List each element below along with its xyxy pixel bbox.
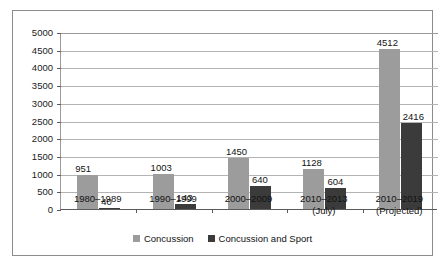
y-axis-tick-mark	[57, 210, 61, 211]
bar-value-label: 604	[327, 177, 343, 187]
legend-item-concussion[interactable]: Concussion	[133, 233, 194, 244]
bar-group: 95140	[77, 32, 120, 209]
bar-group: 1450640	[228, 32, 271, 209]
y-axis-tick-mark	[57, 175, 61, 176]
x-axis-category-label: 1990–1999	[135, 193, 210, 205]
legend-item-concussion-and-sport[interactable]: Concussion and Sport	[208, 233, 312, 244]
bar[interactable]	[175, 204, 196, 209]
y-axis-tick-label: 2000	[11, 134, 53, 144]
bar-group: 45122416	[379, 32, 422, 209]
bar-value-label: 1003	[151, 163, 172, 173]
y-axis-tick-mark	[57, 157, 61, 158]
y-axis-tick-mark	[57, 122, 61, 123]
y-axis-tick-label: 3500	[11, 81, 53, 91]
x-axis-category-line2: (July)	[286, 205, 361, 217]
x-axis-category-label: 1980–1989	[60, 193, 135, 205]
x-axis-category-line1: 1990–1999	[149, 193, 197, 204]
x-axis-category-line1: 2010–2019	[376, 193, 424, 204]
bar-value-label: 951	[75, 164, 91, 174]
y-axis-tick-label: 500	[11, 187, 53, 197]
chart-frame: 9514010031431450640112860445122416 Concu…	[12, 10, 433, 256]
bar-value-label: 4512	[377, 38, 398, 48]
x-axis-category-line1: 2000–2009	[225, 193, 273, 204]
x-axis-category-label: 2010–2013(July)	[286, 193, 361, 216]
y-axis-tick-mark	[57, 86, 61, 87]
y-axis-tick-label: 3000	[11, 99, 53, 109]
bar-group: 1128604	[303, 32, 346, 209]
bar-group: 1003143	[153, 32, 196, 209]
legend-label-concussion: Concussion	[144, 233, 194, 244]
x-axis-category-label: 2010–2019(Projected)	[362, 193, 437, 216]
y-axis-tick-label: 0	[11, 205, 53, 215]
y-axis-tick-label: 2500	[11, 117, 53, 127]
y-axis-tick-label: 4000	[11, 63, 53, 73]
bar-value-label: 1128	[301, 158, 321, 168]
bar-value-label: 1450	[226, 147, 247, 157]
bar-value-label: 640	[252, 175, 268, 185]
y-axis-tick-label: 1000	[11, 170, 53, 180]
x-axis-category-line1: 1980–1989	[74, 193, 122, 204]
x-axis-tick-mark	[212, 209, 213, 213]
figure: 9514010031431450640112860445122416 Concu…	[0, 0, 447, 272]
y-axis-tick-mark	[57, 33, 61, 34]
bar-value-label: 2416	[403, 112, 424, 122]
plot-area: 9514010031431450640112860445122416	[60, 33, 437, 210]
y-axis-tick-label: 4500	[11, 46, 53, 56]
bar[interactable]	[99, 208, 120, 209]
x-axis-category-label: 2000–2009	[211, 193, 286, 205]
y-axis-tick-label: 5000	[11, 28, 53, 38]
x-axis-category-line1: 2010–2013	[300, 193, 348, 204]
x-axis-tick-mark	[136, 209, 137, 213]
legend-label-concussion-and-sport: Concussion and Sport	[219, 233, 312, 244]
legend-swatch-concussion	[133, 235, 140, 242]
x-axis-category-line2: (Projected)	[362, 205, 437, 217]
y-axis-tick-mark	[57, 139, 61, 140]
y-axis-tick-mark	[57, 51, 61, 52]
y-axis-tick-mark	[57, 68, 61, 69]
legend-swatch-concussion-and-sport	[208, 235, 215, 242]
y-axis-tick-label: 1500	[11, 152, 53, 162]
y-axis-tick-mark	[57, 104, 61, 105]
chart-legend: Concussion Concussion and Sport	[13, 233, 432, 244]
bar[interactable]	[379, 49, 400, 209]
